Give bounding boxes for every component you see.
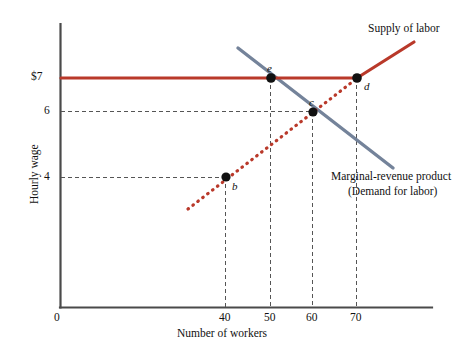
x-tick-label-50: 50 <box>264 311 276 324</box>
y-tick-label-6: 6 <box>44 104 50 117</box>
mrp-demand-line <box>238 48 393 168</box>
x-tick-label-70: 70 <box>350 311 362 324</box>
y-axis-title: Hourly wage <box>28 144 41 204</box>
mrp-annotation-line1: Marginal-revenue product <box>331 170 451 183</box>
x-axis-title: Number of workers <box>177 327 267 340</box>
mrp-annotation-line2: (Demand for labor) <box>348 185 437 198</box>
y-tick-label-7: $7 <box>31 70 43 83</box>
data-point-d <box>352 73 362 83</box>
marginal-labor-cost-line <box>188 76 360 209</box>
data-point-c <box>308 107 317 116</box>
point-label-b: b <box>232 180 238 193</box>
x-tick-label-60: 60 <box>306 311 318 324</box>
x-tick-label-40: 40 <box>219 311 231 324</box>
labor-market-chart: $7 6 4 0 40 50 60 70 Number of workers H… <box>0 0 473 355</box>
point-label-e: e <box>267 62 272 75</box>
point-label-c: c <box>309 96 314 109</box>
y-tick-label-4: 4 <box>44 170 50 183</box>
data-point-b <box>221 172 230 181</box>
supply-of-labor-annotation: Supply of labor <box>368 22 440 35</box>
point-label-d: d <box>364 80 370 93</box>
x-tick-label-0: 0 <box>54 311 60 324</box>
